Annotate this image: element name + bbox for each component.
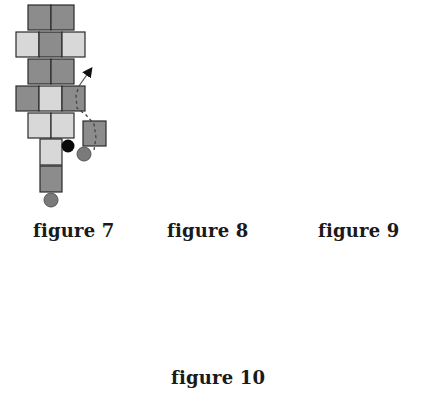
bead-square	[28, 113, 51, 138]
figure-10-caption: figure 10	[171, 367, 265, 388]
thread-arrow-icon	[79, 69, 91, 86]
beading-diagrams	[0, 0, 430, 411]
bead-square	[51, 5, 74, 30]
bead-square	[62, 86, 85, 111]
bead-square	[40, 139, 62, 165]
figure-7-caption: figure 7	[33, 220, 115, 241]
figure-7-diagram	[16, 5, 106, 207]
bead-square	[16, 32, 39, 57]
round-bead-black	[62, 140, 75, 153]
figure-9-caption: figure 9	[318, 220, 400, 241]
bead-square	[16, 86, 39, 111]
bead-square	[39, 86, 62, 111]
figure-8-caption: figure 8	[167, 220, 249, 241]
round-bead	[77, 147, 91, 161]
bead-square	[51, 59, 74, 84]
bead-square	[62, 32, 85, 57]
bead-square	[51, 113, 74, 138]
bead-square	[28, 59, 51, 84]
round-bead	[44, 193, 58, 207]
bead-square	[40, 166, 62, 192]
bead-square	[39, 32, 62, 57]
bead-square	[28, 5, 51, 30]
